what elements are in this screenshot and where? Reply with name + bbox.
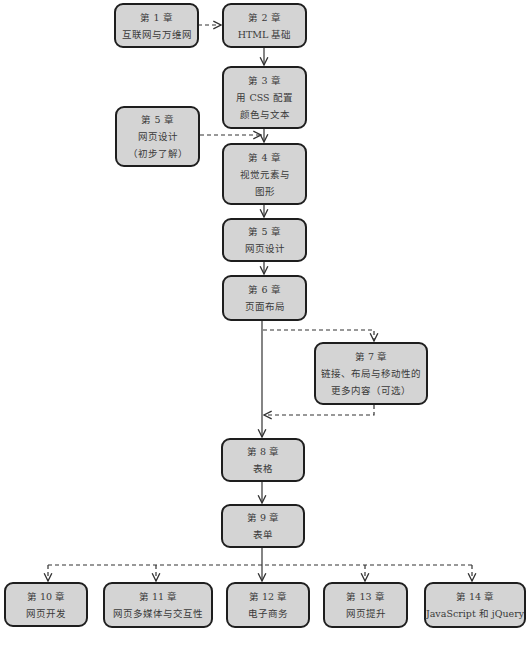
- node-ch9: 第 9 章 表单: [221, 504, 305, 548]
- chapter-title: 网页提升: [346, 605, 386, 622]
- node-ch5-preview: 第 5 章 网页设计 （初步了解）: [115, 106, 200, 167]
- chapter-title-line1: 网页设计: [138, 128, 178, 145]
- chapter-title-line1: 用 CSS 配置: [236, 89, 292, 106]
- node-ch10: 第 10 章 网页开发: [4, 582, 88, 627]
- node-ch7: 第 7 章 链接、布局与移动性的 更多内容（可选）: [314, 342, 428, 405]
- chapter-title-line2: 更多内容（可选）: [331, 382, 411, 399]
- chapter-title-line1: 视觉元素与: [240, 166, 290, 183]
- chapter-number: 第 10 章: [27, 588, 65, 605]
- node-ch8: 第 8 章 表格: [221, 438, 305, 482]
- chapter-number: 第 12 章: [249, 588, 287, 605]
- node-ch14: 第 14 章 JavaScript 和 jQuery: [424, 582, 526, 628]
- chapter-number: 第 7 章: [355, 348, 387, 365]
- node-ch13: 第 13 章 网页提升: [323, 582, 408, 628]
- chapter-title: JavaScript 和 jQuery: [426, 605, 524, 622]
- node-ch12: 第 12 章 电子商务: [226, 582, 310, 628]
- chapter-title: 页面布局: [245, 298, 285, 315]
- node-ch2: 第 2 章 HTML 基础: [222, 3, 307, 48]
- chapter-title: 网页设计: [245, 240, 285, 257]
- chapter-number: 第 14 章: [456, 588, 494, 605]
- edge-ch6-ch7: [263, 330, 374, 341]
- chapter-number: 第 13 章: [346, 588, 384, 605]
- chapter-number: 第 6 章: [248, 281, 280, 298]
- chapter-title: 表单: [253, 526, 273, 543]
- chapter-title: HTML 基础: [238, 26, 292, 43]
- node-ch5: 第 5 章 网页设计: [222, 218, 307, 262]
- chapter-title-line2: 图形: [255, 183, 275, 200]
- chapter-title-line2: （初步了解）: [128, 145, 188, 162]
- chapter-number: 第 5 章: [248, 223, 280, 240]
- chapter-title: 网页多媒体与交互性: [113, 605, 203, 622]
- chapter-title: 表格: [253, 460, 273, 477]
- node-ch6: 第 6 章 页面布局: [222, 275, 307, 321]
- chapter-number: 第 3 章: [248, 72, 280, 89]
- chapter-number: 第 2 章: [248, 9, 280, 26]
- chapter-title: 互联网与万维网: [122, 26, 192, 43]
- chapter-title-line1: 链接、布局与移动性的: [321, 365, 421, 382]
- node-ch3: 第 3 章 用 CSS 配置 颜色与文本: [222, 66, 307, 129]
- chapter-number: 第 9 章: [247, 509, 279, 526]
- chapter-number: 第 4 章: [248, 149, 280, 166]
- chapter-title: 电子商务: [248, 605, 288, 622]
- chapter-number: 第 1 章: [140, 9, 172, 26]
- node-ch4: 第 4 章 视觉元素与 图形: [222, 143, 307, 205]
- node-ch11: 第 11 章 网页多媒体与交互性: [103, 582, 213, 628]
- chapter-number: 第 11 章: [139, 588, 177, 605]
- node-ch1: 第 1 章 互联网与万维网: [114, 3, 199, 48]
- chapter-title: 网页开发: [26, 605, 66, 622]
- chapter-number: 第 5 章: [141, 111, 173, 128]
- chapter-title-line2: 颜色与文本: [240, 106, 290, 123]
- edge-ch7-ch8: [264, 405, 374, 415]
- chapter-number: 第 8 章: [247, 443, 279, 460]
